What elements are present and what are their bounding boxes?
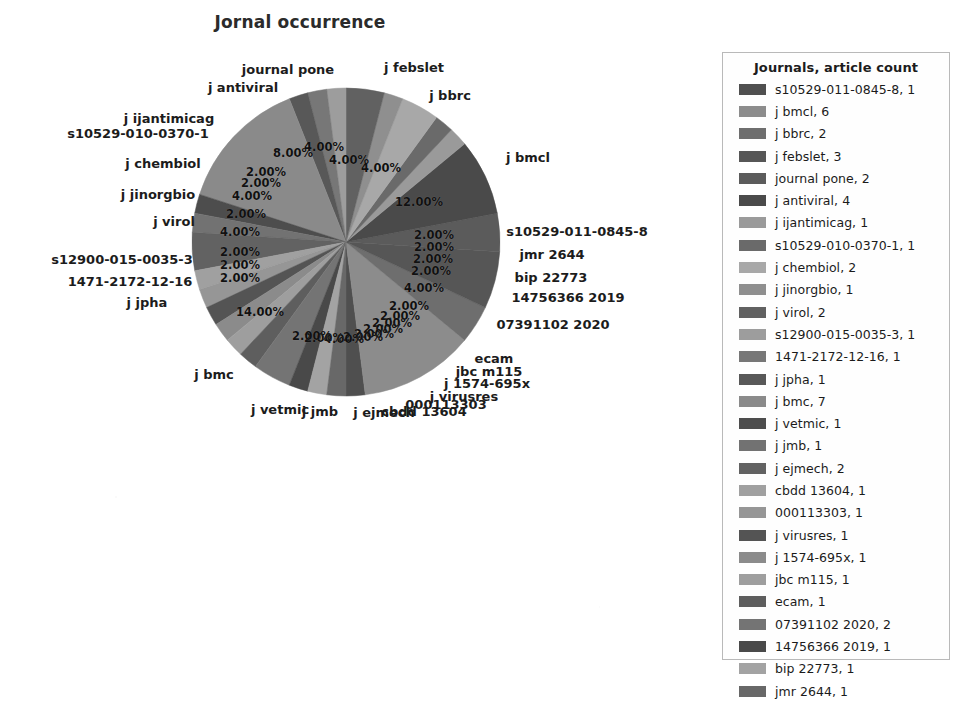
legend-item-label: 14756366 2019, 1 [775,639,891,654]
slice-category-label: j jinorgbio [121,187,196,202]
legend-item[interactable]: journal pone, 2 [731,167,941,189]
legend-color-swatch [739,217,766,228]
legend-item-label: j vetmic, 1 [775,416,841,431]
slice-category-label: j bbrc [429,88,471,103]
legend-color-swatch [739,195,766,206]
legend-item-label: j jpha, 1 [775,372,826,387]
legend-item[interactable]: 07391102 2020, 2 [731,613,941,635]
legend-item[interactable]: j febslet, 3 [731,145,941,167]
legend-item-label: j ejmech, 2 [775,461,845,476]
legend-item[interactable]: j virol, 2 [731,301,941,323]
legend-color-swatch [739,351,766,362]
legend-item[interactable]: j bbrc, 2 [731,123,941,145]
legend-item[interactable]: s12900-015-0035-3, 1 [731,323,941,345]
chart-title: Jornal occurrence [0,12,600,32]
legend-color-swatch [739,641,766,652]
slice-category-label: j bmc [194,367,234,382]
legend-item[interactable]: j 1574-695x, 1 [731,546,941,568]
legend-color-swatch [739,440,766,451]
slice-category-label: journal pone [242,62,334,77]
chart-area: Jornal occurrence 4.00%4.00%12.00%2.00%2… [0,0,710,690]
legend-item[interactable]: 000113303, 1 [731,502,941,524]
legend-item-label: j antiviral, 4 [775,193,850,208]
slice-percent-label: 2.00% [220,258,260,272]
legend-color-swatch [739,284,766,295]
legend-color-swatch [739,396,766,407]
slice-category-label: s10529-011-0845-8 [506,224,648,239]
legend-item[interactable]: j bmcl, 6 [731,100,941,122]
slice-percent-label: 14.00% [236,305,284,319]
pie-svg [191,87,501,397]
legend-item-label: j jmb, 1 [775,438,822,453]
legend-item[interactable]: jbc m115, 1 [731,569,941,591]
legend-item-label: bip 22773, 1 [775,661,855,676]
legend-item[interactable]: cbdd 13604, 1 [731,479,941,501]
legend-color-swatch [739,84,766,95]
slice-category-label: s12900-015-0035-3 [51,252,193,267]
legend-item[interactable]: jmr 2644, 1 [731,680,941,702]
legend-item[interactable]: j vetmic, 1 [731,412,941,434]
slice-percent-label: 2.00% [220,245,260,259]
legend-item-label: j ijantimicag, 1 [775,215,868,230]
legend-color-swatch [739,173,766,184]
legend-item[interactable]: j ejmech, 2 [731,457,941,479]
legend-item-label: s10529-011-0845-8, 1 [775,82,915,97]
legend-color-swatch [739,418,766,429]
slice-category-label: j bmcl [506,150,550,165]
slice-percent-label: 2.00% [246,165,286,179]
legend-item[interactable]: j jinorgbio, 1 [731,279,941,301]
legend-color-swatch [739,507,766,518]
legend-color-swatch [739,574,766,585]
legend-item[interactable]: j jpha, 1 [731,368,941,390]
legend-item[interactable]: s10529-010-0370-1, 1 [731,234,941,256]
slice-percent-label: 4.00% [232,189,272,203]
legend-item-label: s12900-015-0035-3, 1 [775,327,915,342]
legend-item-label: 000113303, 1 [775,505,863,520]
legend-item[interactable]: bip 22773, 1 [731,658,941,680]
slice-percent-label: 4.00% [361,161,401,175]
legend-color-swatch [739,552,766,563]
legend-item[interactable]: j chembiol, 2 [731,256,941,278]
legend-item-label: 1471-2172-12-16, 1 [775,349,901,364]
legend-item[interactable]: j ijantimicag, 1 [731,212,941,234]
legend-color-swatch [739,374,766,385]
legend-item[interactable]: s10529-011-0845-8, 1 [731,78,941,100]
legend-color-swatch [739,530,766,541]
legend-item[interactable]: j virusres, 1 [731,524,941,546]
legend-color-swatch [739,686,766,697]
legend-item[interactable]: ecam, 1 [731,591,941,613]
slice-category-label: 1471-2172-12-16 [68,274,193,289]
legend-item[interactable]: j jmb, 1 [731,435,941,457]
slice-category-label: j ijantimicag [124,111,214,126]
legend-color-swatch [739,307,766,318]
legend-item[interactable]: 14756366 2019, 1 [731,635,941,657]
legend-item-label: j jinorgbio, 1 [775,282,853,297]
pie-chart [191,87,501,397]
slice-category-label: j ejmech [353,405,415,420]
legend-item[interactable]: j antiviral, 4 [731,189,941,211]
slice-category-label: s10529-010-0370-1 [67,126,209,141]
slice-percent-label: 2.00% [292,329,332,343]
legend-item[interactable]: j bmc, 7 [731,390,941,412]
slice-category-label: j vetmic [251,402,309,417]
legend-item-label: j bmc, 7 [775,394,826,409]
slice-category-label: j antiviral [208,80,278,95]
legend-item-label: j virusres, 1 [775,528,849,543]
slice-percent-label: 12.00% [395,195,443,209]
legend-item-label: ecam, 1 [775,594,826,609]
legend-item[interactable]: 1471-2172-12-16, 1 [731,346,941,368]
slice-percent-label: 4.00% [220,225,260,239]
slice-percent-label: 2.00% [220,271,260,285]
slice-percent-label: 4.00% [404,281,444,295]
legend-item-label: 07391102 2020, 2 [775,617,891,632]
legend-title: Journals, article count [731,60,941,75]
slice-percent-label: 4.00% [304,140,344,154]
legend-color-swatch [739,151,766,162]
legend-item-label: journal pone, 2 [775,171,870,186]
legend-item-label: jmr 2644, 1 [775,684,848,699]
legend-color-swatch [739,596,766,607]
legend-item-label: j chembiol, 2 [775,260,856,275]
slice-category-label: bip 22773 [515,270,588,285]
legend-color-swatch [739,329,766,340]
